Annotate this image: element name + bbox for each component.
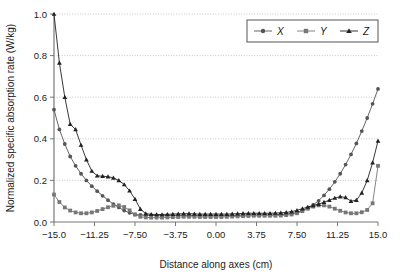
point-y-57 [360,210,364,214]
point-x-54 [344,163,348,167]
point-y-6 [85,211,89,215]
legend-label-x: X [276,26,284,37]
point-y-11 [112,204,116,208]
x-tick-label-3: −3.75 [163,229,187,240]
point-x-4 [74,164,78,168]
point-y-10 [106,205,110,209]
point-y-2 [63,206,67,210]
point-x-5 [79,172,83,176]
point-y-60 [376,164,380,168]
point-y-16 [139,215,143,219]
point-x-60 [376,87,380,91]
point-y-23 [176,215,180,219]
y-tick-label-2: 0.4 [34,133,47,144]
point-y-17 [144,216,148,220]
point-y-50 [322,203,326,207]
point-y-13 [122,205,126,209]
point-x-9 [101,194,105,198]
point-y-8 [95,209,99,213]
x-tick-label-4: 0.00 [207,229,226,240]
point-y-18 [149,216,153,220]
x-axis-title: Distance along axes (cm) [160,259,273,270]
point-x-7 [90,184,94,188]
point-y-19 [155,216,159,220]
point-y-0 [52,193,56,197]
point-x-56 [355,141,359,145]
point-x-58 [365,116,369,120]
point-y-3 [68,209,72,213]
x-tick-label-6: 7.50 [288,229,307,240]
point-x-6 [85,179,89,183]
point-y-9 [101,207,105,211]
point-x-53 [338,172,342,176]
y-tick-label-1: 0.2 [34,175,47,186]
point-y-4 [74,211,78,215]
point-y-24 [182,215,186,219]
sar-line-chart: −15.0−11.25−7.50−3.750.003.757.5011.2515… [0,0,412,278]
point-y-51 [328,205,332,209]
point-x-50 [322,193,326,197]
y-tick-label-0: 0.0 [34,217,47,228]
y-tick-label-3: 0.6 [34,92,47,103]
x-tick-label-0: −15.0 [42,229,66,240]
point-y-56 [355,211,359,215]
point-x-52 [333,180,337,184]
x-tick-label-7: 11.25 [326,229,349,240]
point-x-2 [63,142,67,146]
x-tick-label-5: 3.75 [247,229,266,240]
point-y-53 [338,209,342,213]
point-y-59 [371,201,375,205]
x-tick-label-8: 15.0 [369,229,388,240]
x-tick-label-1: −11.25 [80,229,109,240]
point-x-51 [328,187,332,191]
point-y-54 [344,211,348,215]
legend-marker-x [261,29,265,33]
point-y-20 [160,216,164,220]
chart-legend: XYZ [247,20,378,42]
point-y-58 [365,208,369,212]
point-y-14 [128,208,132,212]
legend-label-z: Z [362,26,370,37]
point-x-59 [371,102,375,106]
x-tick-label-2: −7.50 [123,229,147,240]
point-x-13 [122,209,126,213]
point-y-52 [333,207,337,211]
y-axis-title: Normalized specific absorption rate (W/k… [5,24,16,212]
point-x-55 [349,153,353,157]
point-y-21 [166,216,170,220]
point-y-5 [79,211,83,215]
y-tick-label-4: 0.8 [34,50,47,61]
point-x-1 [58,128,62,132]
point-y-7 [90,211,94,215]
point-y-1 [58,200,62,204]
legend-marker-y [304,29,308,33]
point-x-57 [360,129,364,133]
point-y-12 [117,203,121,207]
point-y-25 [187,215,191,219]
point-y-55 [349,211,353,215]
point-x-8 [95,189,99,193]
y-tick-label-5: 1.0 [34,9,47,20]
chart-container: −15.0−11.25−7.50−3.750.003.757.5011.2515… [0,0,412,278]
point-y-15 [133,213,137,217]
point-x-3 [68,155,72,159]
point-x-10 [106,198,110,202]
point-y-22 [171,215,175,219]
point-x-0 [52,108,56,112]
